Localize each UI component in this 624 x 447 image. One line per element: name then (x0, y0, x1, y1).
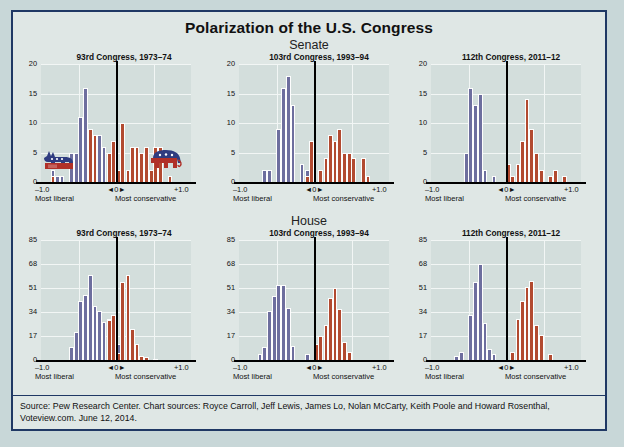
gridline-vertical (544, 240, 545, 360)
zero-axis-line (314, 61, 316, 182)
histogram-bar-rep (337, 309, 342, 360)
y-axis-tick-label: 10 (217, 118, 235, 127)
plot-region: 05101520–1.0+1.0◄0►Most liberalMost cons… (217, 64, 407, 208)
histogram-bar-rep (120, 123, 125, 182)
y-axis-tick-label: 15 (19, 89, 37, 98)
histogram-bar-dem (300, 164, 305, 182)
histogram-bar-rep (347, 352, 352, 360)
x-axis-label-conservative: Most conservative (115, 372, 176, 381)
panel-title: 103rd Congress, 1993–94 (217, 52, 407, 62)
plot-region: 01734516885–1.0+1.0◄0►Most liberalMost c… (409, 240, 599, 386)
x-axis-label-conservative: Most conservative (115, 194, 176, 203)
chart-panel: 112th Congress, 2011–1205101520–1.0+1.0◄… (409, 52, 599, 208)
histogram-bar-rep (539, 335, 544, 360)
y-axis-tick-label: 68 (19, 259, 37, 268)
x-axis-zero-marker: ◄0► (107, 185, 126, 194)
x-axis-line (426, 182, 586, 184)
x-axis-zero-marker: ◄0► (305, 185, 324, 194)
panel-title: 112th Congress, 2011–12 (409, 52, 599, 62)
zero-axis-line (116, 61, 118, 182)
histogram-bar-rep (120, 282, 125, 360)
histogram-bar-rep (93, 135, 98, 182)
panel-title: 112th Congress, 2011–12 (409, 228, 599, 238)
x-axis-tick-left: –1.0 (35, 185, 49, 194)
chart-panel: 93rd Congress, 1973–7405101520–1.0+1.0◄0… (19, 52, 215, 208)
histogram-bar-dem (281, 88, 286, 182)
histogram-bar-dem (291, 105, 296, 182)
y-axis-tick-label: 85 (217, 235, 235, 244)
x-axis-zero-marker: ◄0► (497, 363, 516, 372)
x-axis-tick-right: +1.0 (372, 363, 387, 372)
y-axis-tick-label: 34 (409, 307, 427, 316)
histogram-bar-dem (262, 170, 267, 182)
zero-axis-line (116, 237, 118, 360)
histogram-bar-rep (351, 158, 356, 182)
zero-axis-line (506, 61, 508, 182)
y-axis-tick-label: 34 (19, 307, 37, 316)
x-axis-label-liberal: Most liberal (425, 372, 464, 381)
histogram-bar-dem (102, 322, 107, 360)
y-axis-tick-label: 5 (19, 148, 37, 157)
histogram-bar-dem (267, 170, 272, 182)
y-axis-tick-label: 20 (409, 59, 427, 68)
elephant-icon (147, 148, 185, 174)
histogram-bar-rep (510, 352, 515, 360)
histogram-bar-dem (83, 88, 88, 182)
x-axis-line (234, 360, 394, 362)
x-axis-tick-right: +1.0 (564, 185, 579, 194)
senate-panel-row: 93rd Congress, 1973–7405101520–1.0+1.0◄0… (13, 52, 605, 208)
histogram-bar-dem (262, 347, 267, 360)
x-axis-tick-right: +1.0 (372, 185, 387, 194)
histogram-bar-rep (529, 129, 534, 182)
histogram-bar-dem (281, 285, 286, 360)
histogram-bar-rep (539, 170, 544, 182)
histogram-bar-rep (337, 129, 342, 182)
y-axis-tick-label: 17 (409, 331, 427, 340)
histogram-bar-dem (473, 282, 478, 360)
x-axis-tick-right: +1.0 (564, 363, 579, 372)
y-axis-tick-label: 10 (19, 118, 37, 127)
page-title: Polarization of the U.S. Congress (13, 19, 605, 37)
source-footnote: Source: Pew Research Center. Chart sourc… (13, 395, 605, 429)
x-axis-line (426, 360, 586, 362)
x-axis-zero-marker: ◄0► (497, 185, 516, 194)
section-heading-senate: Senate (13, 38, 605, 52)
plot-region: 05101520–1.0+1.0◄0►Most liberalMost cons… (19, 64, 215, 208)
histogram-bar-rep (318, 336, 323, 360)
y-axis-tick-label: 51 (19, 283, 37, 292)
x-axis-line (36, 360, 196, 362)
y-axis-tick-label: 17 (19, 331, 37, 340)
chart-frame: Polarization of the U.S. Congress Senate… (11, 10, 607, 431)
y-axis-tick-label: 85 (19, 235, 37, 244)
x-axis-label-conservative: Most conservative (505, 194, 566, 203)
panel-title: 103rd Congress, 1993–94 (217, 228, 407, 238)
x-axis-zero-marker: ◄0► (107, 363, 126, 372)
y-axis-tick-label: 68 (217, 259, 235, 268)
chart-panel: 93rd Congress, 1973–7401734516885–1.0+1.… (19, 228, 215, 386)
y-axis-tick-label: 5 (217, 148, 235, 157)
histogram-bar-dem (483, 170, 488, 182)
y-axis-tick-label: 51 (409, 283, 427, 292)
x-axis-label-liberal: Most liberal (233, 194, 272, 203)
x-axis-zero-marker: ◄0► (305, 363, 324, 372)
histogram-bar-rep (318, 170, 323, 182)
x-axis-line (36, 182, 196, 184)
x-axis-tick-left: –1.0 (425, 185, 439, 194)
y-axis-tick-label: 17 (217, 331, 235, 340)
y-axis-tick-label: 20 (217, 59, 235, 68)
donkey-icon (43, 150, 77, 174)
y-axis-tick-label: 15 (409, 89, 427, 98)
y-axis-tick-label: 10 (409, 118, 427, 127)
x-axis-tick-right: +1.0 (174, 363, 189, 372)
x-axis-label-conservative: Most conservative (313, 194, 374, 203)
histogram-bar-rep (139, 153, 144, 183)
zero-axis-line (314, 237, 316, 360)
y-axis-tick-label: 68 (409, 259, 427, 268)
histogram-bar-dem (83, 295, 88, 360)
x-axis-label-liberal: Most liberal (35, 194, 74, 203)
zero-axis-line (506, 237, 508, 360)
histogram-bar-rep (553, 170, 558, 182)
y-axis-tick-label: 34 (217, 307, 235, 316)
chart-panel: 103rd Congress, 1993–9401734516885–1.0+1… (217, 228, 407, 386)
x-axis-tick-left: –1.0 (233, 363, 247, 372)
